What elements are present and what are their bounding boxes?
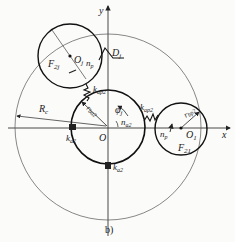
F21-label: F21 [177, 142, 191, 155]
F2j-label: F2j [47, 58, 60, 71]
Rc-label: Rc [38, 103, 49, 116]
phi-j-label: φj [115, 104, 123, 117]
spring-k-a2-left [69, 124, 76, 130]
r-ba2-label: rba2 [85, 104, 100, 119]
O2-center [68, 54, 71, 57]
np-upper-rotation [69, 70, 76, 73]
Oj-label: Oj [74, 54, 83, 67]
k-ap2-right-label: kap2 [140, 102, 153, 113]
spring-k-a2-bottom [105, 162, 111, 169]
y-axis-label: y [98, 5, 104, 16]
phi-angle-arc [116, 121, 118, 127]
origin-label: O [99, 132, 106, 143]
O1-center [179, 126, 182, 129]
k-ap2-upper-label: kap2 [93, 84, 106, 95]
k-a2-bottom-label: ka2 [113, 162, 123, 173]
O1-label: O1 [186, 129, 197, 142]
figure-caption: b) [105, 224, 113, 236]
np-upper-label: np [86, 58, 94, 69]
n-a2-label: na2 [121, 117, 132, 128]
gear-mesh-diagram: y x O F2j Oj np Dj kap2 Rc rba2 φj na2 k… [0, 0, 235, 242]
diagram-canvas: y x O F2j Oj np Dj kap2 Rc rba2 φj na2 k… [0, 0, 235, 242]
np-right-label: np [160, 129, 168, 140]
x-axis-label: x [221, 129, 227, 140]
Rc-arrow [17, 116, 106, 126]
